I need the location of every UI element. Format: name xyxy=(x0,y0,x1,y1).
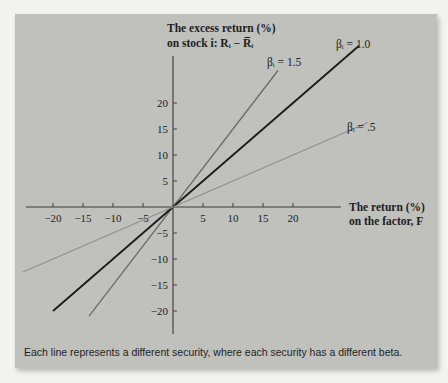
x-tick-label: 20 xyxy=(288,212,300,224)
y-tick-label: −15 xyxy=(151,279,169,291)
series-line-0 xyxy=(89,71,278,317)
x-tick-label: −5 xyxy=(137,212,149,224)
series-label: βᵢ = 1.0 xyxy=(336,38,371,51)
x-tick-label: 15 xyxy=(258,212,270,224)
x-axis-title-line: The return (%) xyxy=(349,201,425,214)
y-tick-label: 5 xyxy=(163,175,169,187)
y-axis-title-line: on stock i: Rᵢ − R̅ᵢ xyxy=(167,37,253,49)
y-tick-label: 20 xyxy=(157,97,169,109)
series-label: βᵢ = 1.5 xyxy=(267,56,302,69)
y-tick-label: −20 xyxy=(151,305,169,317)
x-tick-label: −10 xyxy=(104,212,122,224)
y-tick-label: −5 xyxy=(156,227,168,239)
y-tick-label: 10 xyxy=(157,149,169,161)
chart: −20−15−10−551015202015105−5−10−15−20 The… xyxy=(0,0,448,383)
series-line-1 xyxy=(53,46,359,311)
x-tick-label: 5 xyxy=(200,212,206,224)
series-line-2 xyxy=(23,123,368,273)
x-tick-label: 10 xyxy=(228,212,240,224)
x-tick-label: −20 xyxy=(44,212,62,224)
y-tick-label: 15 xyxy=(157,123,169,135)
x-axis-title-line: on the factor, F xyxy=(349,215,423,227)
figure-caption: Each line represents a different securit… xyxy=(24,346,402,358)
y-tick-label: −10 xyxy=(151,253,169,265)
series-label: βᵢ = .5 xyxy=(347,121,376,134)
x-tick-label: −15 xyxy=(74,212,92,224)
y-axis-title-line: The excess return (%) xyxy=(167,22,276,35)
